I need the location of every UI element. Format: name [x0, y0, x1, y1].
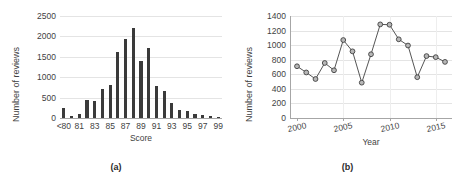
chart-a-ytick-2500: 2500 — [18, 12, 56, 21]
chart-b-caption: (b) — [232, 162, 463, 172]
chart-b-marker — [359, 80, 364, 85]
chart-b-xtickmark — [297, 118, 298, 121]
chart-b-marker — [322, 61, 327, 66]
chart-a-bar — [132, 28, 135, 118]
chart-a-bar — [186, 111, 189, 118]
chart-a-x-tick-labels: <8081838587899193959799 — [60, 122, 222, 133]
chart-b-series-line — [290, 16, 452, 118]
chart-a-x-axis-line — [60, 118, 222, 119]
chart-a-bar — [170, 103, 173, 119]
chart-a-ytick-500: 500 — [18, 93, 56, 102]
chart-b-ytick-1400: 1400 — [252, 12, 286, 21]
chart-a-bar — [209, 116, 212, 118]
chart-b-ytick-400: 400 — [252, 84, 286, 93]
chart-a-plot-area — [60, 16, 222, 118]
chart-a-xtick: 99 — [204, 122, 232, 131]
chart-b-marker — [313, 77, 318, 82]
chart-a-bar — [85, 100, 88, 118]
chart-a: 2500 2000 1500 1000 500 0 <8081838587899… — [0, 0, 232, 189]
panel-a: Number of reviews 2500 2000 1500 1000 50… — [0, 0, 232, 189]
chart-a-bar — [163, 91, 166, 118]
chart-b-marker — [341, 38, 346, 43]
chart-a-ytick-2000: 2000 — [18, 32, 56, 41]
chart-a-bar — [101, 89, 104, 118]
chart-a-bar — [193, 114, 196, 118]
chart-a-bar — [217, 117, 220, 118]
chart-b-marker — [350, 49, 355, 54]
chart-b-ytick-1000: 1000 — [252, 41, 286, 50]
chart-b-marker — [369, 52, 374, 57]
chart-a-ytick-1500: 1500 — [18, 52, 56, 61]
chart-b-ytick-600: 600 — [252, 70, 286, 79]
chart-a-ytick-1000: 1000 — [18, 73, 56, 82]
chart-b-ytick-0: 0 — [252, 114, 286, 123]
chart-a-x-axis-title: Score — [60, 134, 222, 143]
chart-b-plot-area — [290, 16, 452, 118]
chart-a-bar — [178, 110, 181, 118]
chart-b-marker — [332, 68, 337, 73]
chart-b-x-axis-title: Year — [290, 138, 452, 147]
chart-a-caption: (a) — [0, 162, 232, 172]
chart-b-x-axis-line — [290, 118, 452, 119]
chart-a-bar — [78, 114, 81, 118]
chart-b-marker — [378, 22, 383, 27]
chart-b-xtickmark — [390, 118, 391, 121]
chart-a-bars — [60, 16, 222, 118]
panel-b: Number of reviews 1400 1200 1000 800 600… — [232, 0, 463, 189]
chart-b-marker — [387, 22, 392, 27]
chart-a-bar — [147, 48, 150, 118]
chart-a-bar — [124, 39, 127, 118]
chart-b-marker — [295, 64, 300, 69]
chart-b-marker — [433, 55, 438, 60]
chart-b-xtickmark — [436, 118, 437, 121]
figure-row: Number of reviews 2500 2000 1500 1000 50… — [0, 0, 463, 189]
chart-b-marker — [424, 54, 429, 59]
chart-a-bar — [62, 108, 65, 118]
chart-b-marker — [406, 43, 411, 48]
chart-b-ytick-200: 200 — [252, 99, 286, 108]
chart-b-xtick: 2010 — [376, 120, 403, 134]
chart-a-bar — [93, 101, 96, 118]
chart-a-bar — [116, 52, 119, 118]
chart-a-bar — [139, 61, 142, 118]
chart-b-marker — [304, 70, 309, 75]
chart-a-bar — [155, 86, 158, 118]
chart-b-marker — [443, 60, 448, 65]
chart-b-marker — [396, 37, 401, 42]
chart-b-ytick-800: 800 — [252, 55, 286, 64]
chart-b-x-tick-labels: 2000200520102015 — [290, 122, 452, 136]
chart-b-xtick: 2000 — [283, 120, 310, 134]
chart-b-xtickmark — [343, 118, 344, 121]
chart-b-ytick-1200: 1200 — [252, 26, 286, 35]
chart-b-marker — [415, 75, 420, 80]
chart-a-bar — [70, 116, 73, 118]
chart-a-bar — [109, 85, 112, 118]
chart-b: 1400 1200 1000 800 600 400 200 0 — [232, 0, 463, 189]
chart-b-xtick: 2015 — [422, 120, 449, 134]
chart-a-bar — [201, 115, 204, 118]
chart-b-xtick: 2005 — [330, 120, 357, 134]
